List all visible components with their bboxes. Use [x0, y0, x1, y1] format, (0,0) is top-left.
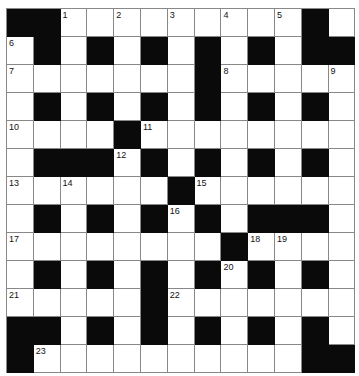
answer-cell[interactable]: 22 [168, 289, 195, 317]
answer-cell[interactable] [275, 261, 302, 289]
answer-cell[interactable] [87, 289, 114, 317]
answer-cell[interactable] [168, 233, 195, 261]
answer-cell[interactable] [114, 93, 141, 121]
answer-cell[interactable] [275, 93, 302, 121]
answer-cell[interactable] [114, 233, 141, 261]
answer-cell[interactable] [275, 37, 302, 65]
answer-cell[interactable]: 20 [221, 261, 248, 289]
answer-cell[interactable]: 21 [7, 289, 34, 317]
answer-cell[interactable] [275, 177, 302, 205]
answer-cell[interactable] [87, 233, 114, 261]
answer-cell[interactable] [248, 177, 275, 205]
answer-cell[interactable] [248, 121, 275, 149]
answer-cell[interactable] [34, 289, 61, 317]
answer-cell[interactable] [34, 233, 61, 261]
answer-cell[interactable]: 10 [7, 121, 34, 149]
answer-cell[interactable] [168, 149, 195, 177]
answer-cell[interactable] [141, 65, 168, 93]
answer-cell[interactable] [87, 9, 114, 37]
answer-cell[interactable] [61, 317, 88, 345]
answer-cell[interactable]: 6 [7, 37, 34, 65]
answer-cell[interactable] [275, 65, 302, 93]
answer-cell[interactable] [275, 345, 302, 373]
answer-cell[interactable] [7, 261, 34, 289]
answer-cell[interactable] [329, 121, 356, 149]
answer-cell[interactable] [302, 121, 329, 149]
answer-cell[interactable] [302, 177, 329, 205]
answer-cell[interactable]: 14 [61, 177, 88, 205]
answer-cell[interactable] [302, 289, 329, 317]
answer-cell[interactable] [275, 317, 302, 345]
answer-cell[interactable] [329, 9, 356, 37]
answer-cell[interactable] [329, 205, 356, 233]
answer-cell[interactable] [114, 177, 141, 205]
answer-cell[interactable] [248, 345, 275, 373]
answer-cell[interactable] [302, 65, 329, 93]
answer-cell[interactable] [114, 289, 141, 317]
answer-cell[interactable] [195, 289, 222, 317]
answer-cell[interactable] [114, 205, 141, 233]
answer-cell[interactable]: 2 [114, 9, 141, 37]
answer-cell[interactable] [221, 149, 248, 177]
answer-cell[interactable] [275, 289, 302, 317]
answer-cell[interactable]: 15 [195, 177, 222, 205]
answer-cell[interactable]: 3 [168, 9, 195, 37]
answer-cell[interactable] [168, 93, 195, 121]
answer-cell[interactable] [61, 345, 88, 373]
answer-cell[interactable] [61, 37, 88, 65]
answer-cell[interactable]: 16 [168, 205, 195, 233]
answer-cell[interactable] [248, 9, 275, 37]
answer-cell[interactable] [248, 65, 275, 93]
answer-cell[interactable] [329, 177, 356, 205]
answer-cell[interactable] [275, 149, 302, 177]
answer-cell[interactable] [248, 289, 275, 317]
answer-cell[interactable] [141, 233, 168, 261]
answer-cell[interactable] [195, 9, 222, 37]
answer-cell[interactable] [7, 93, 34, 121]
answer-cell[interactable] [329, 233, 356, 261]
answer-cell[interactable] [87, 345, 114, 373]
answer-cell[interactable] [61, 233, 88, 261]
answer-cell[interactable]: 11 [141, 121, 168, 149]
answer-cell[interactable] [168, 345, 195, 373]
answer-cell[interactable] [329, 93, 356, 121]
answer-cell[interactable] [221, 177, 248, 205]
answer-cell[interactable] [114, 345, 141, 373]
answer-cell[interactable] [221, 317, 248, 345]
answer-cell[interactable] [221, 205, 248, 233]
answer-cell[interactable] [195, 345, 222, 373]
answer-cell[interactable] [302, 233, 329, 261]
answer-cell[interactable]: 7 [7, 65, 34, 93]
answer-cell[interactable] [168, 65, 195, 93]
answer-cell[interactable]: 1 [61, 9, 88, 37]
answer-cell[interactable] [275, 121, 302, 149]
answer-cell[interactable] [141, 345, 168, 373]
answer-cell[interactable] [329, 149, 356, 177]
answer-cell[interactable] [168, 261, 195, 289]
answer-cell[interactable]: 5 [275, 9, 302, 37]
answer-cell[interactable] [221, 121, 248, 149]
answer-cell[interactable] [61, 93, 88, 121]
answer-cell[interactable] [168, 317, 195, 345]
answer-cell[interactable]: 4 [221, 9, 248, 37]
answer-cell[interactable] [114, 37, 141, 65]
answer-cell[interactable] [168, 121, 195, 149]
answer-cell[interactable] [168, 37, 195, 65]
answer-cell[interactable] [195, 121, 222, 149]
answer-cell[interactable] [61, 121, 88, 149]
answer-cell[interactable] [34, 121, 61, 149]
answer-cell[interactable]: 12 [114, 149, 141, 177]
answer-cell[interactable] [329, 289, 356, 317]
answer-cell[interactable] [114, 317, 141, 345]
answer-cell[interactable] [329, 261, 356, 289]
answer-cell[interactable] [7, 149, 34, 177]
answer-cell[interactable] [141, 9, 168, 37]
answer-cell[interactable] [61, 205, 88, 233]
answer-cell[interactable] [221, 37, 248, 65]
answer-cell[interactable] [34, 177, 61, 205]
answer-cell[interactable] [221, 345, 248, 373]
answer-cell[interactable] [114, 261, 141, 289]
answer-cell[interactable] [87, 121, 114, 149]
answer-cell[interactable]: 18 [248, 233, 275, 261]
answer-cell[interactable] [61, 289, 88, 317]
